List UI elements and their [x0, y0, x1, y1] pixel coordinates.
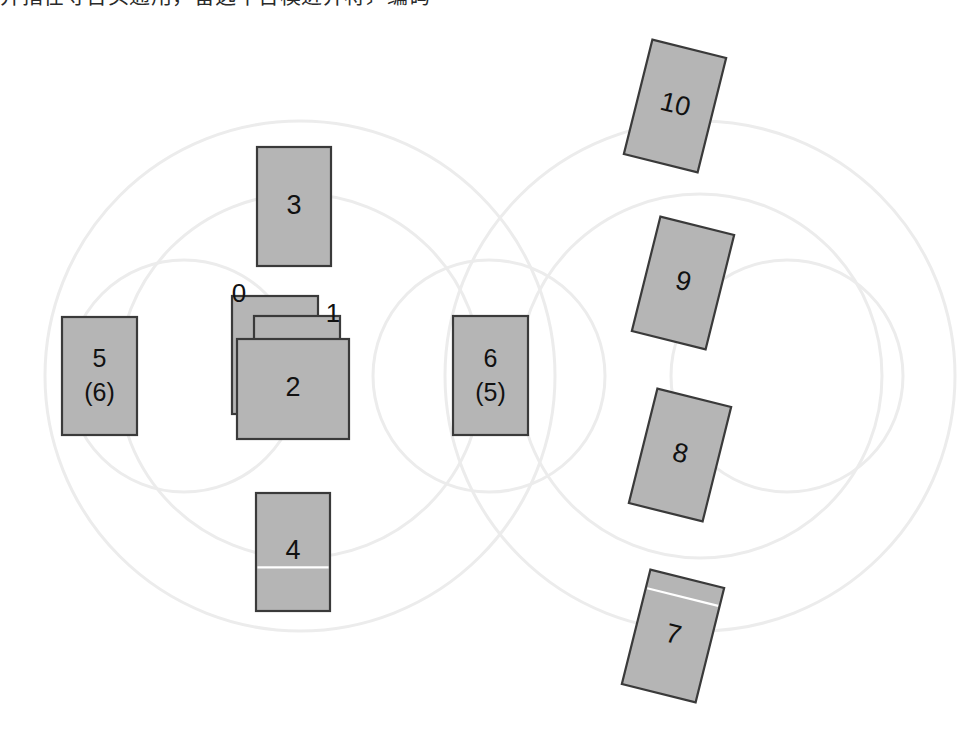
block-9[interactable]: 9: [632, 217, 734, 350]
block-5[interactable]: 5(6): [62, 317, 137, 435]
block-3[interactable]: 3: [257, 147, 331, 266]
block-label-4: 4: [285, 535, 300, 565]
block-4[interactable]: 4: [256, 493, 330, 611]
block-label-2: 2: [285, 372, 300, 402]
block-rect-5[interactable]: [62, 317, 137, 435]
diagram-svg: 345(6)6(5)78910201: [0, 0, 970, 737]
block-10[interactable]: 10: [624, 40, 726, 173]
block-rect-6[interactable]: [453, 316, 528, 435]
block-2[interactable]: 2: [237, 339, 349, 439]
diagram-canvas: 345(6)6(5)78910201: [0, 0, 970, 737]
block-7[interactable]: 7: [622, 570, 724, 703]
block-label-3: 3: [286, 190, 301, 220]
block-label-1: 1: [326, 298, 340, 328]
block-8[interactable]: 8: [629, 389, 731, 522]
block-6[interactable]: 6(5): [453, 316, 528, 435]
block-label-0: 0: [232, 278, 246, 308]
